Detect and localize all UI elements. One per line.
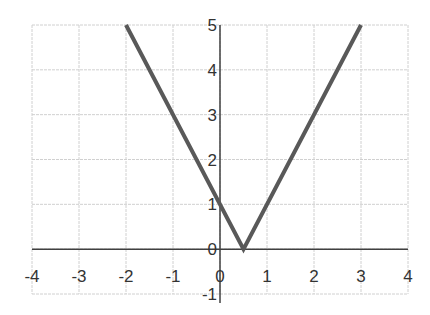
x-tick-label: 3	[356, 267, 365, 286]
x-tick-label: 1	[262, 267, 271, 286]
function-plot: -4-3-2-101234 -1012345	[0, 0, 430, 315]
x-tick-label: 0	[215, 267, 224, 286]
y-tick-label: 0	[208, 240, 217, 259]
y-tick-label: 4	[208, 61, 217, 80]
x-tick-label: 2	[309, 267, 318, 286]
x-tick-label: 4	[403, 267, 412, 286]
y-tick-label: -1	[202, 285, 217, 304]
x-tick-labels: -4-3-2-101234	[24, 267, 412, 286]
x-tick-label: -4	[24, 267, 39, 286]
y-tick-label: 3	[208, 106, 217, 125]
axes	[32, 25, 408, 303]
y-tick-label: 1	[208, 195, 217, 214]
x-tick-label: -3	[71, 267, 86, 286]
series-lines	[126, 25, 361, 249]
x-tick-label: -1	[165, 267, 180, 286]
x-tick-label: -2	[118, 267, 133, 286]
y-tick-label: 2	[208, 151, 217, 170]
function-line	[126, 25, 361, 249]
y-tick-label: 5	[208, 16, 217, 35]
